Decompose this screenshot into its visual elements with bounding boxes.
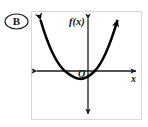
question-option-b: B f(x) O x bbox=[0, 0, 148, 127]
y-axis-label: f(x) bbox=[69, 16, 85, 28]
parabola-graph: f(x) O x bbox=[31, 11, 142, 120]
origin-label: O bbox=[78, 68, 85, 79]
x-axis-label: x bbox=[130, 73, 136, 84]
option-marker-b[interactable]: B bbox=[4, 13, 29, 30]
option-letter-label: B bbox=[4, 13, 29, 30]
